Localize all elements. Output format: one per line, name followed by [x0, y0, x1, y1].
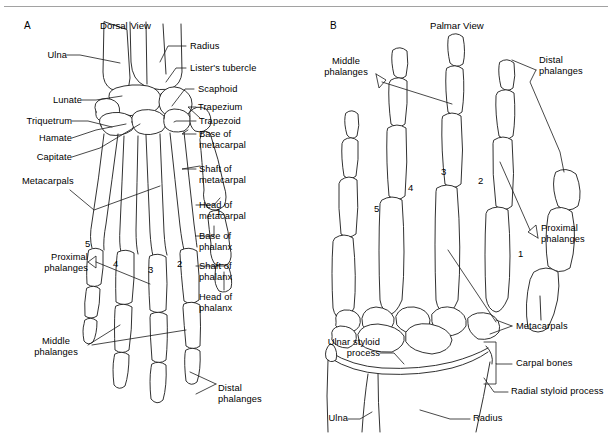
digit-2-a: 2 — [177, 258, 182, 269]
leader-radius-b — [420, 410, 470, 419]
bone-distal-phalanx-3-b — [448, 34, 465, 67]
bone-proximal-phalanx-2-b — [493, 137, 514, 210]
panel-a-title: Dorsal View — [100, 20, 151, 31]
bone-metacarpal-3-b — [435, 185, 460, 314]
digit-4-a: 4 — [113, 258, 118, 269]
label-shaft-of-metacarpal-a: Shaft of metacarpal — [199, 164, 246, 185]
bone-ulna-a — [103, 22, 130, 92]
bone-metacarpal-2-b — [485, 207, 510, 312]
label-capitate-a: Capitate — [0, 152, 72, 163]
bone-distal-phalanx-4-a — [113, 352, 129, 388]
bone-metacarpal-2-a — [170, 133, 184, 250]
bone-proximal-phalanx-4-b — [387, 125, 407, 200]
label-base-of-phalanx-a: Base of phalanx — [199, 231, 232, 252]
bone-metacarpal-5b-a — [104, 134, 118, 250]
label-distal-phalanges-a: Distal phalanges — [218, 383, 262, 404]
bone-middle-phalanx-3-a — [150, 312, 167, 362]
digit-3-b: 3 — [441, 166, 446, 177]
digit-2-b: 2 — [478, 175, 483, 186]
leader-ulna-b — [348, 412, 372, 419]
bone-ulna-b2 — [362, 374, 368, 432]
leader-middle-phalanges-a — [88, 325, 186, 345]
bone-distal-phalanx-2-b — [499, 60, 515, 91]
label-radius-a: Radius — [190, 41, 220, 52]
label-head-of-metacarpal-a: Head of metacarpal — [199, 200, 246, 221]
bone-middle-phalanx-2-a — [183, 302, 201, 348]
bone-capitate-a — [132, 110, 166, 135]
bone-distal-phalanx-1-b — [554, 169, 581, 210]
label-middle-phalanges-b: Middle phalanges — [314, 56, 378, 77]
bone-proximal-phalanx-5-b — [339, 177, 358, 237]
panel-b-letter: B — [330, 20, 337, 31]
label-listers-tubercle-a: Lister's tubercle — [190, 63, 256, 74]
leader-shaft-of-metacarpal-a — [182, 166, 200, 169]
bone-middle-phalanx-3-b — [446, 66, 464, 115]
bone-hamate-a — [99, 112, 134, 135]
label-base-of-metacarpal-a: Base of metacarpal — [199, 129, 246, 150]
label-distal-phalanges-b: Distal phalanges — [539, 55, 583, 76]
bone-radius-b — [378, 374, 380, 432]
label-metacarpals-b: Metacarpals — [516, 321, 568, 332]
label-metacarpals-a: Metacarpals — [22, 176, 74, 187]
label-triquetrum-a: Triquetrum — [0, 116, 72, 127]
bone-metacarpal-3b-a — [160, 134, 167, 255]
label-trapezium-a: Trapezium — [198, 102, 242, 113]
digit-3-a: 3 — [148, 264, 153, 275]
bone-proximal-phalanx-4-a — [116, 250, 135, 304]
bone-middle-phalanx-5-a — [85, 286, 100, 318]
anatomy-figure: A Dorsal View Ulna Radius Lister's tuber… — [0, 0, 612, 442]
leader-middle-phalanges-b — [376, 74, 452, 104]
label-trapezoid-a: Trapezoid — [199, 116, 241, 127]
bone-middle-phalanx-2-b — [496, 90, 515, 139]
label-radius-b: Radius — [473, 413, 503, 424]
digit-5-b: 5 — [374, 203, 379, 214]
bone-proximal-phalanx-2-a — [180, 248, 199, 303]
label-carpal-bones-b: Carpal bones — [516, 358, 572, 369]
bone-metacarpal-2b-a — [184, 132, 197, 247]
bone-metacarpal-3-a — [146, 135, 153, 256]
digit-4-b: 4 — [408, 182, 413, 193]
bone-trapezoid-a — [164, 109, 191, 132]
label-hamate-a: Hamate — [0, 133, 72, 144]
label-proximal-phalanges-b: Proximal phalanges — [541, 223, 585, 244]
label-proximal-phalanges-a: Proximal phalanges — [0, 252, 88, 273]
bone-carpal-pisiform-b — [468, 313, 500, 340]
panel-b-title: Palmar View — [430, 20, 484, 31]
bone-metacarpal-4-b — [379, 197, 404, 314]
bone-distal-phalanx-4-b — [392, 48, 408, 79]
bone-metacarpal-5-a — [91, 134, 105, 248]
bone-metacarpal-5-b — [332, 235, 355, 320]
leader-ulnar-styloid-process-b — [380, 353, 404, 364]
bone-proximal-phalanx-3-a — [149, 254, 167, 312]
leader-distal-phalanges-b — [512, 60, 564, 172]
figure-illustration — [0, 0, 612, 442]
label-middle-phalanges-a: Middle phalanges — [24, 336, 88, 357]
label-ulna-a: Ulna — [0, 50, 67, 61]
bone-radius-a — [130, 22, 182, 90]
label-lunate-a: Lunate — [0, 95, 82, 106]
panel-a-letter: A — [24, 20, 31, 31]
digit-1-a: 1 — [216, 206, 221, 217]
bone-distal-phalanx-5-b — [345, 111, 359, 139]
label-ulnar-styloid-process-b: Ulnar styloid process — [308, 337, 380, 358]
label-scaphoid-a: Scaphoid — [198, 84, 238, 95]
label-shaft-of-phalanx-a: Shaft of phalanx — [199, 261, 232, 282]
leader-metacarpals-a — [70, 186, 160, 210]
bone-middle-phalanx-4-a — [115, 304, 133, 352]
bone-distal-phalanx-2-a — [185, 348, 201, 384]
label-head-of-phalanx-a: Head of phalanx — [199, 292, 232, 313]
bone-distal-phalanx-3-a — [150, 362, 166, 403]
label-ulna-b: Ulna — [300, 413, 348, 424]
digit-1-b: 1 — [518, 248, 523, 259]
label-radial-styloid-process-b: Radial styloid process — [511, 386, 603, 397]
bone-middle-phalanx-5-b — [342, 138, 359, 179]
digit-5-a: 5 — [85, 238, 90, 249]
bone-metacarpal-4-a — [120, 136, 124, 252]
